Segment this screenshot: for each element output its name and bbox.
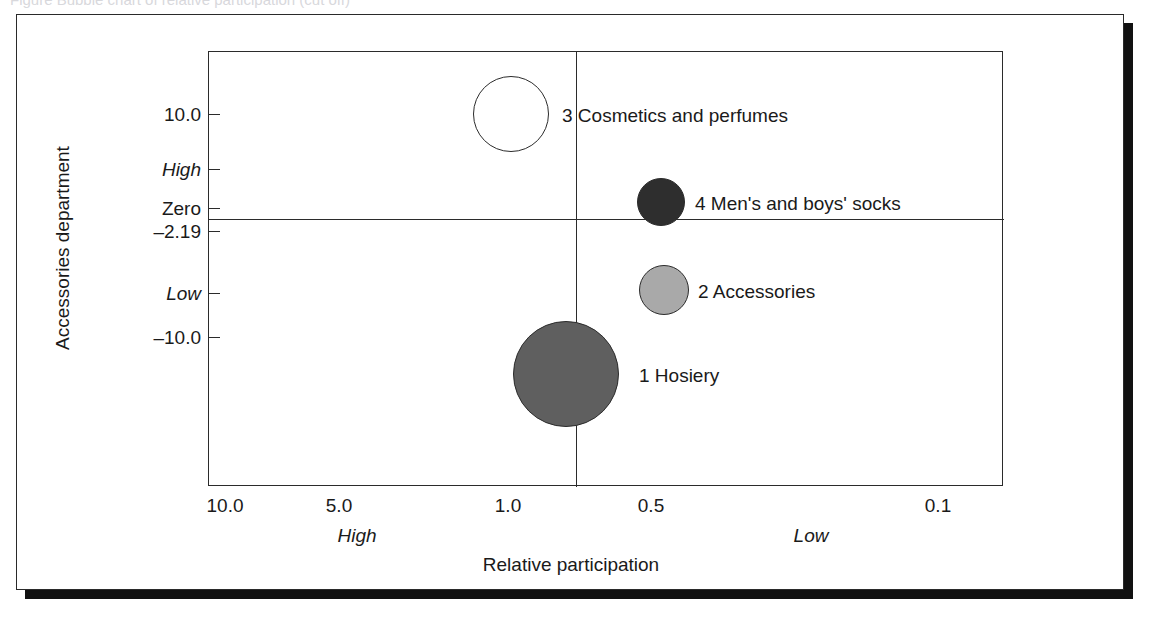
y-axis-tick-2 bbox=[208, 208, 220, 209]
cut-caption-strip: Figure Bubble chart of relative particip… bbox=[0, 0, 1151, 10]
y-axis-tick-0 bbox=[208, 114, 220, 115]
x-axis-tick-label-2: 1.0 bbox=[473, 496, 543, 515]
figure-frame: 10.0HighZero–2.19Low–10.0 Accessories de… bbox=[16, 14, 1124, 590]
bubble-cosmetics-and-perfumes-label: 3 Cosmetics and perfumes bbox=[562, 106, 788, 125]
x-axis-tick-label-0: 10.0 bbox=[190, 496, 260, 515]
y-axis-tick-label-2: Zero bbox=[71, 199, 201, 218]
x-axis-sub-label-1: Low bbox=[766, 526, 856, 545]
x-axis-tick-label-1: 5.0 bbox=[304, 496, 374, 515]
y-axis-tick-4 bbox=[208, 293, 220, 294]
y-axis-tick-5 bbox=[208, 337, 220, 338]
y-axis-tick-label-0: 10.0 bbox=[71, 105, 201, 124]
y-axis-tick-1 bbox=[208, 169, 220, 170]
bubble-mens-and-boys-socks[interactable] bbox=[637, 178, 685, 226]
cut-caption-text: Figure Bubble chart of relative particip… bbox=[10, 0, 350, 8]
y-axis-tick-label-4: Low bbox=[71, 284, 201, 303]
zero-horizontal-line bbox=[208, 219, 1004, 220]
y-axis-title: Accessories department bbox=[52, 98, 74, 398]
x-axis-title: Relative participation bbox=[17, 554, 1125, 576]
y-axis-tick-label-3: –2.19 bbox=[71, 222, 201, 241]
y-axis-tick-labels: 10.0HighZero–2.19Low–10.0 bbox=[61, 15, 201, 450]
bubble-chart: 10.0HighZero–2.19Low–10.0 Accessories de… bbox=[17, 15, 1125, 591]
bubble-accessories-label: 2 Accessories bbox=[698, 282, 815, 301]
bubble-accessories[interactable] bbox=[639, 265, 689, 315]
y-axis-tick-label-5: –10.0 bbox=[71, 328, 201, 347]
bubble-mens-and-boys-socks-label: 4 Men's and boys' socks bbox=[695, 194, 901, 213]
bubble-cosmetics-and-perfumes[interactable] bbox=[473, 76, 549, 152]
bubble-hosiery-label: 1 Hosiery bbox=[639, 366, 719, 385]
x-axis-sub-label-0: High bbox=[312, 526, 402, 545]
x-axis-tick-label-3: 0.5 bbox=[616, 496, 686, 515]
bubble-hosiery[interactable] bbox=[513, 321, 619, 427]
y-axis-tick-label-1: High bbox=[71, 160, 201, 179]
x-axis-tick-label-4: 0.1 bbox=[903, 496, 973, 515]
y-axis-tick-3 bbox=[208, 231, 220, 232]
